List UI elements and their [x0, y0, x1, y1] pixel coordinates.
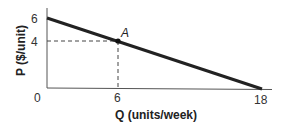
x-tick-18: 18: [254, 93, 268, 107]
x-axis-label: Q (units/week): [115, 108, 197, 122]
demand-chart: A 6 4 0 6 18 Q (units/week) P ($/unit): [0, 0, 284, 130]
x-axis: [47, 88, 272, 90]
y-tick-6: 6: [31, 12, 38, 26]
point-a-marker: [115, 38, 120, 43]
point-a-label: A: [120, 26, 129, 40]
x-tick-6: 6: [114, 91, 121, 105]
y-axis-label: P ($/unit): [14, 25, 28, 76]
y-tick-4: 4: [31, 35, 38, 49]
origin-label: 0: [34, 91, 41, 105]
demand-line: [47, 18, 262, 89]
